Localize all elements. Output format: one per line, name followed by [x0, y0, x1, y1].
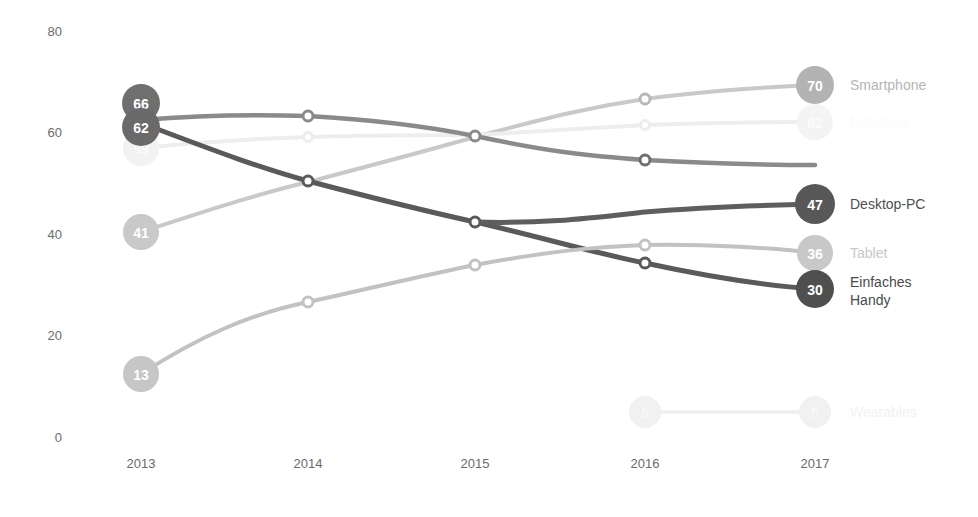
- value-bubble-tablet-2013: 13: [123, 356, 159, 392]
- value-bubble-desktop-2013-text: 62: [133, 120, 149, 136]
- series-line-einfaches-handy: [475, 204, 815, 222]
- value-bubble-tablet-upper-2013: 41: [123, 214, 159, 250]
- line-chart: 80 60 40 20 0 2013 2014 2015 2016 2017: [0, 0, 978, 517]
- value-bubble-desktop-2017: 47: [795, 184, 835, 224]
- value-bubble-tablet-2017-text: 36: [807, 246, 823, 262]
- value-bubble-tablet-2017: 36: [797, 235, 833, 271]
- series-label-smartphone: Smartphone: [850, 77, 926, 95]
- value-bubble-notebook-2017-text: 62: [807, 115, 823, 131]
- value-bubble-wearables-2016-text: 5: [641, 405, 649, 421]
- value-bubble-wearables-2016: 5: [629, 396, 661, 428]
- value-bubble-einfaches-handy-2017: 30: [796, 270, 834, 308]
- value-bubble-desktop-2017-text: 47: [807, 197, 823, 213]
- value-bubble-notebook-2017: 62: [797, 104, 833, 140]
- series-label-wearables: Wearables: [850, 404, 917, 422]
- series-label-desktop-pc: Desktop-PC: [850, 196, 925, 214]
- value-bubble-wearables-2017: 5: [799, 396, 831, 428]
- value-bubble-desktop-2013: 62: [122, 108, 160, 146]
- value-bubble-smartphone-2017: 70: [796, 66, 834, 104]
- series-label-notebook: Notebook: [850, 114, 910, 132]
- series-label-tablet: Tablet: [850, 245, 887, 263]
- value-bubble-tablet-2013-text: 13: [133, 367, 149, 383]
- value-bubble-einfaches-handy-2017-text: 30: [807, 282, 823, 298]
- value-bubble-tablet-upper-2013-text: 41: [133, 225, 149, 241]
- value-bubble-smartphone-2017-text: 70: [807, 78, 823, 94]
- plot-area: 66 59 62 41 13 5 5 70: [0, 0, 978, 517]
- value-bubble-wearables-2017-text: 5: [811, 405, 819, 421]
- series-label-einfaches-handy: Einfaches Handy: [850, 274, 911, 309]
